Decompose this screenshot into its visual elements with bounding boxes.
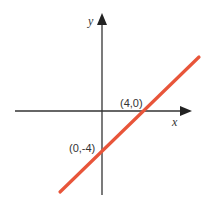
y-axis — [97, 13, 107, 195]
chart-plot — [0, 0, 206, 203]
x-axis-arrow-icon — [180, 106, 192, 116]
y-intercept-label: (0,-4) — [69, 143, 95, 154]
data-line — [60, 57, 199, 192]
x-intercept-label: (4,0) — [120, 98, 143, 109]
y-axis-arrow-icon — [97, 13, 107, 25]
y-axis-label: y — [88, 15, 93, 27]
x-axis — [15, 106, 192, 116]
x-axis-label: x — [172, 116, 177, 128]
